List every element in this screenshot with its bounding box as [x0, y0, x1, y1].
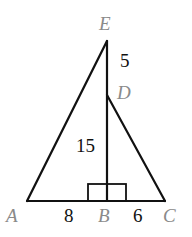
length-label-ED: 5 — [120, 50, 130, 71]
point-label-A: A — [4, 205, 18, 226]
segment-DC — [107, 95, 165, 201]
length-label-AB: 8 — [64, 205, 74, 226]
segment-AE — [27, 41, 107, 201]
point-label-B: B — [98, 205, 110, 226]
right-angle-mark-right — [107, 184, 126, 201]
right-angle-mark-left — [88, 184, 107, 201]
point-label-C: C — [163, 205, 176, 226]
length-label-DB: 15 — [76, 135, 95, 156]
point-label-D: D — [116, 82, 131, 103]
point-label-E: E — [98, 13, 111, 34]
triangle-diagram: E D A B C 5 15 8 6 — [0, 0, 192, 237]
length-label-BC: 6 — [133, 205, 143, 226]
